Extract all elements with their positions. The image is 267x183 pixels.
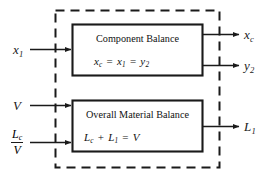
fraction-numerator-base: L [12,127,19,141]
eq2-term3-base: V [133,131,140,143]
eq2-term2-sub: 1 [114,137,118,145]
eq1-term3-sub: 2 [145,61,149,69]
output-xc-base: x [244,27,250,42]
input-label-V: V [13,99,21,112]
output-label-y2: y2 [244,59,254,72]
overall-material-balance-equation: Lc + L1 = V [84,131,140,143]
diagram-canvas [0,0,267,183]
input-V-base: V [13,98,21,113]
output-L1-sub: 1 [251,126,255,136]
output-xc-sub: c [250,34,254,44]
eq2-op2: = [118,131,133,143]
input-x1-base: x [13,42,19,57]
eq1-op1: = [102,55,117,67]
eq1-term2-sub: 1 [122,61,126,69]
fraction-numerator-sub: c [19,133,23,142]
input-x1-sub: 1 [19,49,23,59]
eq1-op2: = [126,55,141,67]
input-label-x1: x1 [13,43,23,56]
overall-material-balance-title: Overall Material Balance [72,109,203,120]
output-label-xc: xc [244,28,254,41]
output-y2-sub: 2 [250,65,254,75]
eq2-op1: + [93,131,108,143]
eq1-term1-sub: c [99,61,102,69]
input-label-Lc-over-V: Lc V [11,128,23,156]
fraction-numerator: Lc [11,128,23,141]
eq2-term1-sub: c [90,137,93,145]
component-balance-title: Component Balance [72,33,203,44]
block-diagram: Component Balance xc = x1 = y2 Overall M… [0,0,267,183]
output-y2-base: y [244,58,250,73]
output-label-L1: L1 [244,120,256,133]
component-balance-equation: xc = x1 = y2 [94,55,149,67]
fraction-denominator: V [11,143,23,156]
